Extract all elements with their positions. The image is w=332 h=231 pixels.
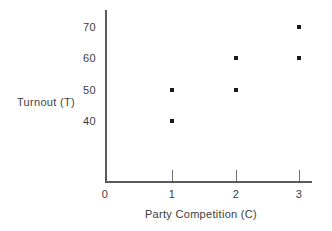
x-axis-tick-label: 1 bbox=[160, 188, 184, 200]
x-axis-tick-label: 3 bbox=[287, 188, 311, 200]
x-axis-tick-mark bbox=[236, 170, 237, 181]
data-point bbox=[234, 88, 238, 92]
y-axis-tick-label: 70 bbox=[66, 21, 96, 34]
data-point bbox=[170, 88, 174, 92]
x-axis-title: Party Competition (C) bbox=[0, 208, 332, 220]
data-point bbox=[170, 119, 174, 123]
y-axis-tick-label-text: 60 bbox=[68, 52, 96, 64]
y-axis-tick-label: 40 bbox=[66, 115, 96, 128]
y-axis-tick-label-text: 40 bbox=[68, 115, 96, 127]
y-axis-line bbox=[105, 10, 107, 183]
y-axis-tick-label-text: 70 bbox=[68, 21, 96, 33]
scatter-plot-figure: 70605040 0123 Turnout (T) Party Competit… bbox=[0, 0, 332, 231]
data-point bbox=[297, 25, 301, 29]
x-axis-tick-label: 0 bbox=[93, 188, 117, 200]
x-axis-tick-label: 2 bbox=[224, 188, 248, 200]
x-axis-line bbox=[105, 181, 312, 183]
x-axis-tick-mark bbox=[172, 170, 173, 181]
y-axis-tick-label-text: 50 bbox=[68, 84, 96, 96]
y-axis-title: Turnout (T) bbox=[17, 96, 75, 108]
data-point bbox=[234, 56, 238, 60]
data-point bbox=[297, 56, 301, 60]
x-axis-tick-mark bbox=[299, 170, 300, 181]
y-axis-tick-label: 60 bbox=[66, 52, 96, 65]
